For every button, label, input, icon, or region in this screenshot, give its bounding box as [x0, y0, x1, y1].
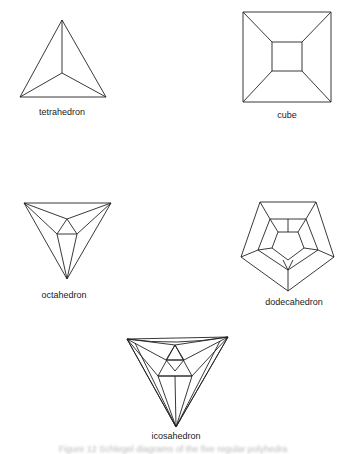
label-octahedron: octahedron — [41, 290, 86, 300]
dodecahedron-diagram — [241, 202, 334, 291]
label-icosahedron: icosahedron — [151, 431, 200, 441]
cube-diagram — [243, 12, 331, 102]
octahedron-diagram — [24, 203, 111, 279]
figure-caption: Figure 12 Schlegel diagrams of the five … — [59, 444, 288, 454]
tetrahedron-diagram — [20, 20, 106, 97]
label-cube: cube — [277, 110, 297, 120]
label-dodecahedron: dodecahedron — [265, 297, 323, 307]
label-tetrahedron: tetrahedron — [39, 107, 85, 117]
icosahedron-diagram — [127, 337, 228, 427]
